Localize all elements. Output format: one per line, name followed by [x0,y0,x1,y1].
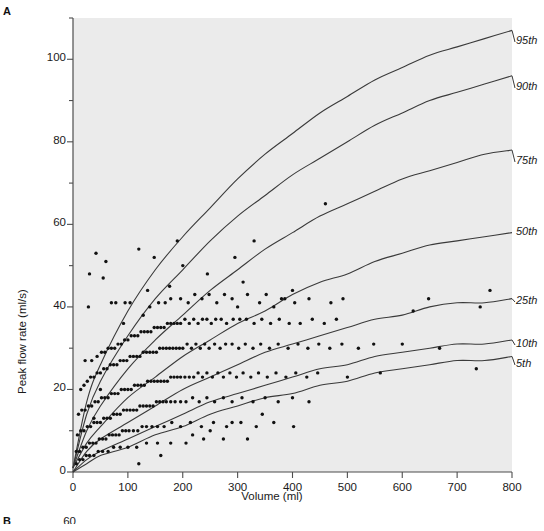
leader-90th [512,76,515,88]
scatter-point [222,396,225,399]
scatter-point [191,396,194,399]
scatter-point [113,347,116,350]
scatter-point [258,301,261,304]
scatter-point [93,400,96,403]
scatter-point [102,276,105,279]
scatter-point [181,347,184,350]
scatter-point [153,326,156,329]
scatter-point [201,375,204,378]
scatter-point [236,305,239,308]
scatter-point [99,371,102,374]
scatter-point [100,351,103,354]
scatter-point [179,322,182,325]
scatter-point [88,454,91,457]
scatter-point [114,301,117,304]
scatter-point [224,342,227,345]
scatter-point [379,371,382,374]
scatter-point [401,342,404,345]
scatter-point [148,305,151,308]
scatter-point [291,289,294,292]
scatter-point [168,285,171,288]
scatter-point [183,318,186,321]
percentile-label-90th: 90th [516,80,537,92]
scatter-point [111,433,114,436]
scatter-point [222,437,225,440]
scatter-point [475,367,478,370]
scatter-point [101,450,104,453]
y-tick-label: 40 [26,299,66,311]
y-tick-label: 100 [26,51,66,63]
scatter-point [191,433,194,436]
scatter-point [189,421,192,424]
scatter-point [149,330,152,333]
scatter-point [210,322,213,325]
scatter-point [125,408,128,411]
scatter-point [294,371,297,374]
scatter-point [246,293,249,296]
scatter-point [92,417,95,420]
scatter-point [103,351,106,354]
scatter-point [173,400,176,403]
scatter-point [165,400,168,403]
scatter-point [142,404,145,407]
y-tick-label: 60 [26,216,66,228]
scatter-point [143,384,146,387]
x-tick-label: 700 [437,481,477,493]
scatter-point [176,375,179,378]
scatter-point [79,429,82,432]
scatter-point [296,342,299,345]
scatter-point [252,322,255,325]
scatter-point [110,392,113,395]
percentile-label-leaders [512,30,515,365]
scatter-point [192,375,195,378]
scatter-point [203,342,206,345]
scatter-point [100,396,103,399]
scatter-point [179,375,182,378]
scatter-point [76,433,79,436]
x-tick-label: 300 [218,481,258,493]
scatter-point [121,429,124,432]
scatter-point [307,400,310,403]
scatter-point [82,384,85,387]
scatter-point [169,400,172,403]
scatter-point [244,342,247,345]
scatter-point [133,334,136,337]
scatter-point [261,413,264,416]
scatter-point [280,297,283,300]
scatter-point [218,347,221,350]
scatter-point [151,351,154,354]
scatter-point [305,375,308,378]
scatter-point [95,355,98,358]
scatter-point [156,441,159,444]
scatter-point [79,388,82,391]
scatter-point [157,301,160,304]
scatter-point [119,359,122,362]
y-tick-label: 80 [26,134,66,146]
scatter-point [252,239,255,242]
scatter-point [168,347,171,350]
leader-10th [512,340,515,345]
scatter-plot-canvas [0,0,544,531]
scatter-point [284,375,287,378]
scatter-point [207,293,210,296]
scatter-point [170,421,173,424]
scatter-point [233,256,236,259]
scatter-point [119,446,122,449]
scatter-point [146,330,149,333]
scatter-point [128,408,131,411]
scatter-point [81,446,84,449]
scatter-point [87,404,90,407]
scatter-point [88,272,91,275]
scatter-point [257,371,260,374]
scatter-point [109,363,112,366]
scatter-point [110,347,113,350]
scatter-point [193,293,196,296]
scatter-point [216,371,219,374]
scatter-point [169,322,172,325]
scatter-point [110,301,113,304]
scatter-point [230,342,233,345]
scatter-point [205,396,208,399]
scatter-point [213,400,216,403]
scatter-point [162,425,165,428]
scatter-point [78,450,81,453]
